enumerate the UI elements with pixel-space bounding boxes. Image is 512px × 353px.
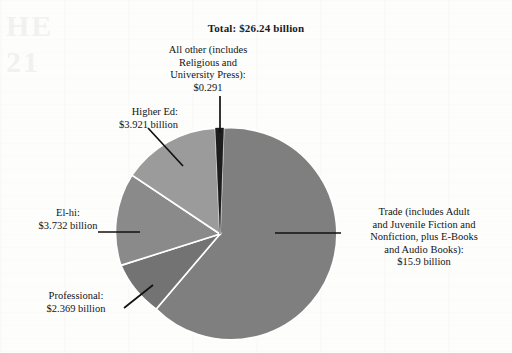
- pie-label-all-other: All other (includes Religious and Univer…: [123, 44, 293, 94]
- pie-chart: Total: $26.24 billion All other (include…: [0, 0, 512, 353]
- pie-label-trade: Trade (includes Adult and Juvenile Ficti…: [340, 206, 508, 269]
- pie-label-professional: Professional: $2.369 billion: [6, 290, 146, 315]
- pie-label-el-hi: El-hi: $3.732 billion: [6, 207, 130, 232]
- pie-label-higher-ed: Higher Ed: $3.921 billion: [38, 106, 178, 131]
